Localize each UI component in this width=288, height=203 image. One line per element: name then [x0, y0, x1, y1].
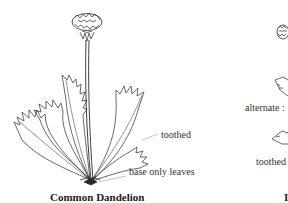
alternate-annotation: alternate :: [245, 103, 285, 113]
base-leaves-leader-line: [98, 176, 126, 182]
common-dandelion-title: Common Dandelion: [50, 192, 144, 203]
partial-plant-illustration: [272, 25, 288, 144]
toothed-annotation: toothed: [161, 130, 191, 140]
botanical-comparison-figure: toothed base only leaves Common Dandelio…: [0, 0, 288, 203]
toothed-leader-line: [142, 134, 158, 140]
flower-head-icon: [72, 13, 102, 41]
base-leaves-annotation: base only leaves: [129, 167, 195, 177]
right-toothed-annotation: toothed: [256, 157, 286, 167]
right-figure-title-partial: I: [284, 192, 288, 203]
